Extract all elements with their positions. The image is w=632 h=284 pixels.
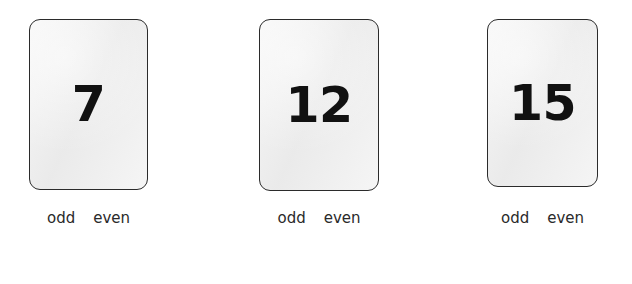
number-card-group: 12 odd even [259, 0, 379, 284]
card-number-value: 15 [509, 79, 576, 128]
choice-option-odd[interactable]: odd [277, 209, 305, 228]
card-number-value: 7 [72, 80, 106, 129]
card-number-value: 12 [285, 81, 352, 130]
number-card[interactable]: 12 [259, 19, 379, 191]
odd-even-worksheet: 7 odd even 12 odd even 15 odd even [0, 0, 632, 284]
number-card[interactable]: 7 [29, 19, 148, 190]
number-card[interactable]: 15 [487, 19, 598, 187]
number-card-group: 15 odd even [487, 0, 598, 284]
choice-option-even[interactable]: even [547, 209, 584, 228]
choice-option-odd[interactable]: odd [47, 209, 75, 228]
number-card-group: 7 odd even [29, 0, 148, 284]
choice-row: odd even [29, 209, 148, 228]
choice-row: odd even [487, 209, 598, 228]
choice-option-even[interactable]: even [324, 209, 361, 228]
choice-option-odd[interactable]: odd [501, 209, 529, 228]
choice-option-even[interactable]: even [93, 209, 130, 228]
choice-row: odd even [259, 209, 379, 228]
